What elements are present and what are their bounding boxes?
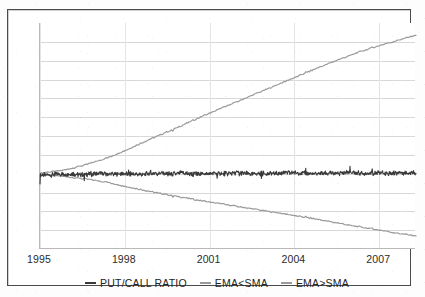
x-tick-label: 1998 (112, 253, 136, 265)
x-tick-label: 1995 (27, 253, 51, 265)
legend-label: EMA<SMA (215, 277, 268, 289)
chart-legend: PUT/CALL RATIOEMA<SMAEMA>SMA (15, 274, 419, 291)
series-line-ema-greater-sma (40, 35, 416, 175)
x-axis-tick-labels: 19951998200120042007 (39, 253, 415, 269)
series-line-ema-less-sma (40, 174, 416, 236)
chart-figure: 19951998200120042007 PUT/CALL RATIOEMA<S… (0, 0, 425, 297)
legend-entry[interactable]: EMA<SMA (200, 277, 268, 289)
x-tick-label: 2004 (282, 253, 306, 265)
plot-area (39, 23, 415, 249)
legend-label: EMA>SMA (296, 277, 349, 289)
series-layer (40, 23, 416, 249)
legend-line-swatch-icon (200, 282, 211, 284)
legend-entry[interactable]: PUT/CALL RATIO (85, 277, 187, 289)
legend-label: PUT/CALL RATIO (100, 277, 187, 289)
legend-line-swatch-icon (85, 282, 96, 284)
legend-line-swatch-icon (281, 282, 292, 284)
x-tick-label: 2001 (197, 253, 221, 265)
figure-border: 19951998200120042007 PUT/CALL RATIOEMA<S… (7, 9, 411, 286)
x-tick-label: 2007 (366, 253, 390, 265)
series-line-put-call-ratio (40, 166, 416, 184)
legend-entry[interactable]: EMA>SMA (281, 277, 349, 289)
